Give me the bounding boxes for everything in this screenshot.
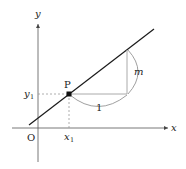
y1-label: y 1: [23, 88, 34, 101]
svg-text:y: y: [23, 88, 30, 99]
point-p: [67, 92, 72, 97]
run-label: 1: [96, 102, 102, 113]
x1-label: x 1: [64, 131, 74, 144]
svg-text:1: 1: [70, 136, 74, 144]
rise-label: m: [134, 66, 143, 77]
x-axis-label: x: [171, 122, 177, 133]
slope-diagram: y x O P y 1 x 1 1 m: [0, 0, 186, 169]
svg-text:1: 1: [30, 93, 34, 101]
origin-label: O: [27, 132, 35, 143]
point-label: P: [64, 79, 71, 90]
line: [29, 29, 154, 125]
y-axis-label: y: [34, 8, 41, 19]
